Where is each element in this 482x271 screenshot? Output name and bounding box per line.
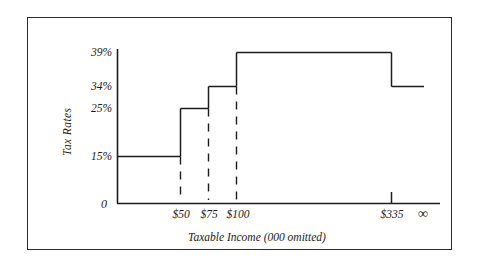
y-axis-title: Tax Rates (62, 101, 74, 163)
y-tick-label-34: 34% (84, 81, 112, 93)
y-tick-label-39: 39% (84, 47, 112, 59)
step-function-line (118, 53, 425, 157)
origin-label: 0 (101, 198, 107, 210)
y-tick-label-25: 25% (84, 103, 112, 115)
infinity-icon: ∞ (418, 207, 428, 221)
x-tick-label-100: $100 (217, 209, 259, 221)
x-axis-title: Taxable Income (000 omitted) (157, 232, 357, 244)
y-tick-label-15: 15% (84, 151, 112, 163)
x-tick-label-335: $335 (371, 209, 413, 221)
figure-root: 39% 34% 25% 15% 0 $50 $75 $100 $335 ∞ Ta… (0, 0, 482, 271)
